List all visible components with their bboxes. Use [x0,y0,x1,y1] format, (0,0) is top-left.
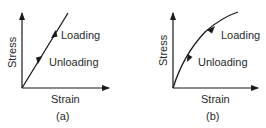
loading-label: Loading [61,29,100,41]
stress-strain-line [22,13,68,88]
x-axis-label: Strain [201,93,230,105]
caption: (b) [206,110,219,122]
stress-strain-diagrams: Loading Unloading Stress Strain (a) Load… [0,0,266,128]
panel-b: Loading Unloading Stress Strain (b) [157,12,260,122]
unloading-label: Unloading [49,56,99,68]
loading-label: Loading [221,29,260,41]
caption: (a) [56,110,69,122]
unloading-label: Unloading [198,56,248,68]
x-axis-label: Strain [51,93,80,105]
panel-a: Loading Unloading Stress Strain (a) [6,13,109,122]
y-axis-label: Stress [6,36,18,68]
stress-strain-curve [173,12,238,88]
unloading-arrow-icon [187,54,193,62]
y-axis-label: Stress [157,34,169,66]
